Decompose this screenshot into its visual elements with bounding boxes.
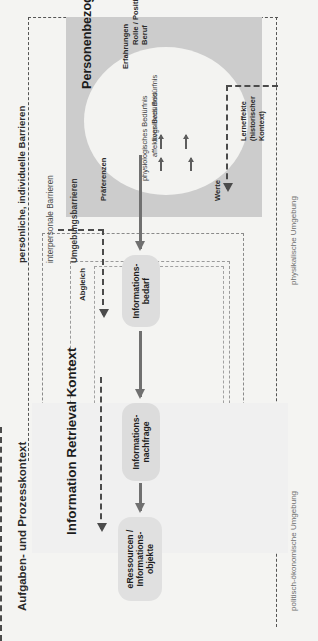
node-eresources-label: eRessourcen / Informations- objekte (125, 530, 156, 589)
dashed-connector-matching-vertical (58, 229, 104, 231)
label-political-economic-environment: politisch-ökonomische Umgebung (289, 491, 298, 611)
arrow-icon-need-to-demand (139, 331, 142, 397)
need-arrow-icon-2 (185, 135, 187, 149)
matching-label: Abgleich (78, 268, 87, 301)
node-information-need-label: Informations- bedarf (131, 264, 152, 319)
label-interpersonal-barriers: interpersonale Barrieren (46, 175, 55, 263)
label-physical-environment: physikalische Umgebung (289, 196, 298, 285)
node-information-demand-label: Informations- nachfrage (131, 415, 152, 470)
arrow-icon-demand-to-eresources (139, 483, 142, 511)
diagram-canvas: Information Retrieval Kontext Personenbe… (0, 0, 318, 641)
node-eresources: eRessourcen / Informations- objekte (118, 517, 162, 601)
person-attribute-preferences: Präferenzen (100, 158, 109, 201)
dashed-arrow-icon-matching (102, 229, 104, 315)
label-personal-barriers: persönliche, individuelle Barrieren (16, 106, 27, 263)
information-retrieval-context-title: Information Retrieval Kontext (64, 348, 79, 536)
diagram-figure: Information Retrieval Kontext Personenbe… (0, 0, 318, 641)
outer-environment-frame-top (28, 17, 29, 461)
person-attribute-values: Werte (214, 180, 223, 201)
need-arrow-icon-3 (160, 158, 162, 171)
person-attribute-experience: Erfahrungen (122, 24, 131, 69)
label-environment-barriers: Umgebungsbarrieren (70, 178, 80, 263)
arrow-icon-person-to-need (139, 155, 142, 249)
dashed-arrow-icon-to-eresources (100, 377, 102, 529)
person-context-title: Personenbezog. Kontext (80, 0, 94, 89)
node-information-need: Informations- bedarf (122, 255, 160, 327)
node-information-demand: Informations- nachfrage (122, 403, 160, 481)
person-attribute-role: Rolle / Position / Beruf (132, 0, 149, 45)
learning-effects-label: Lerneffekte (historischer Kontext) (240, 96, 267, 141)
need-affective: affektives Bedürfnis (150, 93, 159, 157)
dashed-arrow-icon-learning (226, 85, 228, 189)
label-task-process-context: Aufgaben- und Prozesskontext (16, 442, 29, 611)
dashed-connector-learning-vertical (226, 85, 278, 87)
need-arrow-icon-1 (160, 135, 162, 149)
need-arrow-icon-4 (190, 158, 192, 171)
dashed-connector-matching-horizontal (0, 427, 2, 641)
